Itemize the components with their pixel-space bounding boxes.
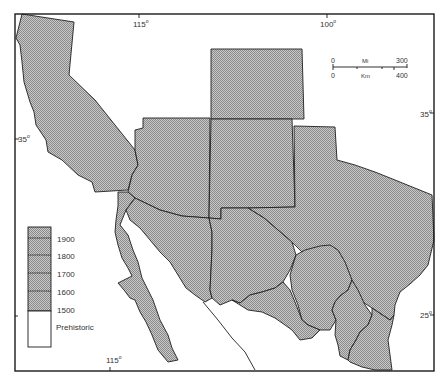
historical-map: 115o 100o 115o 35o 35o 25o 0 Mi 300 0 Km…	[0, 0, 442, 383]
region-california	[16, 14, 138, 192]
legend-label-1900: 1900	[57, 235, 75, 244]
lat-label-left-35: 35o	[18, 133, 30, 144]
scale-bar: 0 Mi 300 0 Km 400	[331, 57, 408, 79]
lon-label-top-115: 115o	[133, 18, 149, 29]
lat-label-right-25: 25o	[420, 309, 432, 320]
legend-label-1700: 1700	[57, 270, 75, 279]
scale-km-end: 400	[396, 72, 408, 79]
scale-mi-start: 0	[331, 57, 335, 64]
lat-label-right-35: 35o	[420, 108, 432, 119]
scale-km-start: 0	[331, 72, 335, 79]
region-new-mexico	[209, 119, 295, 219]
legend-label-1800: 1800	[57, 252, 75, 261]
legend-label-prehistoric: Prehistoric	[56, 323, 94, 332]
lon-label-top-100: 100o	[320, 18, 336, 29]
coastline	[203, 302, 255, 370]
legend-label-1600: 1600	[57, 288, 75, 297]
scale-mi-end: 300	[396, 57, 408, 64]
lon-label-bottom-115: 115o	[106, 354, 122, 365]
legend: 1900 1800 1700 1600 1500 Prehistoric	[28, 227, 94, 347]
scale-mi-unit: Mi	[362, 58, 368, 64]
region-colorado	[211, 49, 304, 119]
scale-km-unit: Km	[361, 73, 370, 79]
legend-label-1500: 1500	[57, 306, 75, 315]
